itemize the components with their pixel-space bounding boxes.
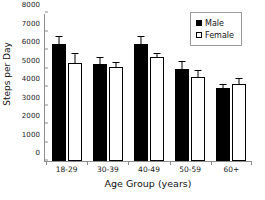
bar-slot: [175, 14, 189, 161]
y-tick-label: 5000: [22, 57, 45, 65]
x-tick-label: 50-59: [170, 165, 211, 174]
error-bar: [223, 85, 224, 88]
bar-group: 30-39: [87, 14, 128, 161]
error-bar-cap: [71, 53, 78, 54]
filled-square-icon: [196, 20, 202, 26]
error-bar: [198, 71, 199, 77]
bar-slot: [52, 14, 66, 161]
error-bar: [157, 54, 158, 57]
x-axis-label: Age Group (years): [44, 178, 252, 189]
bar-female-60+: [232, 84, 246, 161]
error-bar-cap: [179, 61, 186, 62]
y-tick-label: 3000: [22, 94, 45, 102]
error-bar: [115, 63, 116, 67]
bar-slot: [109, 14, 123, 161]
y-tick-label: 4000: [22, 75, 45, 83]
y-tick-label: 6000: [22, 38, 45, 46]
legend-label-female: Female: [205, 31, 234, 40]
bar-slot: [68, 14, 82, 161]
bar-female-30-39: [109, 67, 123, 161]
error-bar: [99, 58, 100, 64]
open-square-icon: [196, 32, 202, 38]
x-tick-label: 30-39: [87, 165, 128, 174]
bar-slot: [134, 14, 148, 161]
bar-male-50-59: [175, 69, 189, 162]
error-bar-cap: [96, 57, 103, 58]
legend-item-male: Male: [196, 17, 234, 29]
y-tick-label: 8000: [22, 1, 45, 9]
error-bar-cap: [154, 53, 161, 54]
y-tick-mark: [45, 12, 48, 13]
bar-female-50-59: [191, 77, 205, 161]
x-tick-label: 40-49: [128, 165, 169, 174]
legend-item-female: Female: [196, 29, 234, 41]
x-tick-label: 60+: [211, 165, 252, 174]
error-bar-cap: [195, 70, 202, 71]
bar-group: 40-49: [128, 14, 169, 161]
bar-male-60+: [216, 88, 230, 161]
x-tick-label: 18-29: [46, 165, 87, 174]
error-bar-cap: [220, 84, 227, 85]
bar-group: 18-29: [46, 14, 87, 161]
bar-female-18-29: [68, 63, 82, 161]
bar-chart-figure: Steps per Day 01000200030004000500060007…: [0, 0, 265, 200]
error-bar: [74, 54, 75, 63]
error-bar-cap: [112, 62, 119, 63]
error-bar: [239, 79, 240, 83]
bar-slot: [150, 14, 164, 161]
legend-label-male: Male: [205, 19, 224, 28]
bar-female-40-49: [150, 57, 164, 161]
y-axis-label: Steps per Day: [0, 0, 14, 148]
error-bar-cap: [236, 78, 243, 79]
error-bar: [58, 37, 59, 44]
bar-male-40-49: [134, 44, 148, 161]
error-bar: [182, 62, 183, 68]
y-tick-label: 2000: [22, 112, 45, 120]
bar-male-30-39: [93, 64, 107, 161]
y-tick-label: 1000: [22, 131, 45, 139]
error-bar-cap: [138, 36, 145, 37]
error-bar-cap: [55, 36, 62, 37]
bar-slot: [93, 14, 107, 161]
y-tick-label: 7000: [22, 20, 45, 28]
y-tick-label: 0: [35, 149, 45, 157]
chart-legend: Male Female: [190, 12, 242, 46]
bar-male-18-29: [52, 44, 66, 161]
error-bar: [141, 37, 142, 43]
